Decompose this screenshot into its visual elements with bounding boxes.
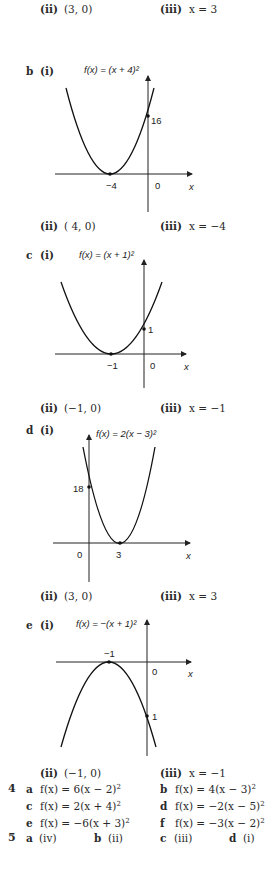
q4-c-letter: c	[26, 800, 32, 812]
graph-d: f(x) = 2(x − 3)² 18 3 0 x	[53, 428, 192, 582]
q4-d-answer: f(x) = −2(x − 5)2	[175, 800, 265, 812]
part-e-ii-label: (ii)	[40, 767, 58, 779]
origin-label: 0	[155, 180, 160, 191]
x-axis-label: x	[185, 550, 192, 561]
q4-e-letter: e	[26, 817, 33, 829]
part-b-axis-answer: x = −4	[189, 220, 226, 232]
q4-b-letter: b	[160, 783, 167, 795]
q5-a-answer: (iv)	[39, 832, 56, 844]
q5-c-answer: (iii)	[174, 832, 192, 844]
part-d-vertex-answer: (3, 0)	[64, 590, 92, 602]
graphs-canvas: f(x) = (x + 4)² 16 −4 0 x f(x) = (x + 1)…	[0, 0, 279, 886]
y-intercept-label: 16	[151, 115, 162, 126]
function-label: f(x) = (x + 4)²	[84, 64, 140, 75]
y-intercept-point	[87, 485, 91, 489]
q4-e-answer: f(x) = −6(x + 3)2	[40, 817, 130, 829]
part-e-iii-label: (iii)	[160, 767, 182, 779]
part-b-ii-label: (ii)	[40, 220, 58, 232]
question-5-number: 5	[8, 832, 16, 844]
origin-label: 0	[152, 666, 157, 677]
y-intercept-label: 1	[148, 324, 153, 335]
part-c-letter: c	[26, 249, 32, 261]
vertex-point	[109, 352, 113, 356]
q4-b-answer: f(x) = 4(x − 3)2	[175, 783, 256, 795]
graph-b: f(x) = (x + 4)² 16 −4 0 x	[55, 64, 195, 212]
part-d-i-label: (i)	[40, 424, 54, 436]
q4-f-letter: f	[160, 817, 165, 829]
part-d-ii-label: (ii)	[40, 590, 58, 602]
origin-label: 0	[150, 360, 155, 371]
q5-d-letter: d	[229, 832, 236, 844]
vertex-label: 3	[116, 549, 121, 560]
x-axis-label: x	[188, 181, 195, 192]
vertex-point	[118, 541, 122, 545]
parabola-curve	[66, 88, 154, 174]
part-d-axis-answer: x = 3	[189, 590, 217, 602]
q4-d-letter: d	[160, 800, 167, 812]
y-intercept-point	[142, 327, 146, 331]
part-d-letter: d	[26, 424, 33, 436]
question-4-number: 4	[8, 783, 16, 795]
q5-d-answer: (i)	[243, 832, 255, 844]
x-axis-label: x	[187, 668, 194, 679]
part-e-letter: e	[26, 619, 33, 631]
part-d-iii-label: (iii)	[160, 590, 182, 602]
function-label: f(x) = 2(x − 3)²	[96, 428, 157, 439]
vertex-label: −4	[106, 180, 117, 191]
part-c-i-label: (i)	[40, 249, 54, 261]
y-intercept-label: 1	[152, 711, 157, 722]
q4-a-letter: a	[26, 783, 33, 795]
y-intercept-point	[146, 114, 150, 118]
y-intercept-point	[145, 714, 149, 718]
part-c-vertex-answer: (−1, 0)	[64, 402, 101, 414]
q4-a-answer: f(x) = 6(x − 2)2	[40, 783, 121, 795]
x-axis-label: x	[183, 361, 190, 372]
part-c-axis-answer: x = −1	[189, 402, 226, 414]
part-c-ii-label: (ii)	[40, 402, 58, 414]
part-e-axis-answer: x = −1	[189, 767, 226, 779]
parabola-curve	[83, 447, 155, 544]
graph-e: f(x) = −(x + 1)² −1 0 x 1	[56, 618, 194, 756]
q5-a-letter: a	[26, 832, 33, 844]
part-b-vertex-answer: ( 4, 0)	[64, 220, 96, 232]
part-e-vertex-answer: (−1, 0)	[64, 767, 101, 779]
part-e-i-label: (i)	[40, 619, 54, 631]
function-label: f(x) = (x + 1)²	[79, 249, 135, 260]
graph-c: f(x) = (x + 1)² 1 −1 0 x	[55, 249, 190, 388]
parabola-curve	[61, 282, 162, 354]
function-label: f(x) = −(x + 1)²	[76, 618, 137, 629]
vertex-label: −1	[107, 360, 118, 371]
q5-b-answer: (ii)	[108, 832, 123, 844]
vertex-point	[108, 172, 112, 176]
parabola-curve	[61, 662, 156, 747]
q5-c-letter: c	[160, 832, 166, 844]
q4-f-answer: f(x) = −3(x − 2)2	[175, 817, 265, 829]
q4-c-answer: f(x) = 2(x + 4)2	[40, 800, 121, 812]
vertex-point	[107, 660, 111, 664]
origin-label: 0	[77, 549, 82, 560]
vertex-label: −1	[104, 648, 115, 659]
y-intercept-label: 18	[73, 483, 84, 494]
part-b-iii-label: (iii)	[160, 220, 182, 232]
part-c-iii-label: (iii)	[160, 402, 182, 414]
q5-b-letter: b	[94, 832, 101, 844]
